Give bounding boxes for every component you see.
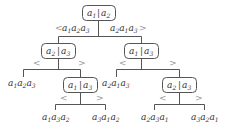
edge-label-lt: < (33, 58, 41, 68)
edge-label-gt: > (96, 93, 104, 103)
edge-label-lt: < (119, 58, 127, 68)
svg-text:|: | (140, 46, 143, 56)
edge-label-lt: < (60, 93, 68, 103)
tree-edges (24, 20, 205, 110)
node-a2-a3-left: a2 | a3 (42, 44, 76, 59)
svg-text:a1a2a3: a1a2a3 (62, 23, 90, 34)
svg-text:a2a1a3: a2a1a3 (110, 23, 138, 34)
decision-tree-diagram: a1 | a2 < a1a2a3 a2a1a3 > a2 | a3 < > a1… (0, 0, 226, 132)
svg-text:|: | (79, 80, 82, 90)
edge-label-gt: > (78, 58, 86, 68)
leaf-a3a2a1: a3a2a1 (191, 112, 219, 123)
svg-text:|: | (178, 80, 181, 90)
node-root: a1 | a2 (83, 6, 116, 21)
leaf-a2a3a1: a2a3a1 (141, 112, 169, 123)
edge-label-root-right: a2a1a3 > (110, 23, 147, 34)
svg-text:|: | (97, 8, 100, 18)
svg-text:>: > (139, 23, 147, 33)
edge-label-gt: > (169, 58, 177, 68)
edge-label-lt: < (159, 93, 167, 103)
edge-label-root-left: < a1a2a3 (55, 23, 90, 34)
node-a1-a3-lower-left: a1 | a3 (64, 78, 98, 93)
node-a1-a3-right: a1 | a3 (125, 44, 159, 59)
leaf-a1a2a3: a1a2a3 (8, 78, 36, 89)
leaf-a3a1a2: a3a1a2 (92, 112, 120, 123)
node-a2-a3-lower-right: a2 | a3 (163, 78, 197, 93)
leaf-a1a3a2: a1a3a2 (42, 112, 70, 123)
leaf-a2a1a3: a2a1a3 (102, 78, 130, 89)
edge-label-gt: > (195, 93, 203, 103)
svg-text:|: | (57, 46, 60, 56)
